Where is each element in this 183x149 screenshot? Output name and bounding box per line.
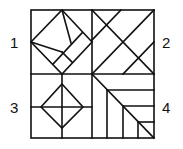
quadrant-3-pattern — [31, 74, 92, 138]
quadrant-4-pattern — [92, 74, 154, 138]
geometric-pattern-diagram: 1 2 3 4 — [0, 0, 183, 149]
quadrant-label-2: 2 — [162, 34, 170, 51]
quadrant-1-pattern — [31, 10, 92, 74]
quadrant-label-3: 3 — [10, 99, 18, 116]
quadrant-label-1: 1 — [10, 34, 18, 51]
quadrant-label-4: 4 — [162, 99, 170, 116]
quadrant-2-pattern — [92, 10, 154, 74]
